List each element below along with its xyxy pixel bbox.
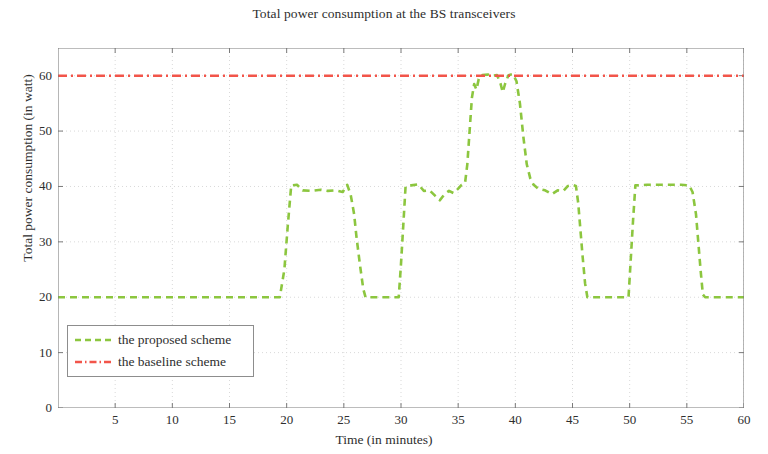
y-tick-label: 0 (18, 400, 52, 416)
series-layer (58, 74, 744, 297)
legend-line-sample-proposed (74, 333, 114, 347)
chart-title: Total power consumption at the BS transc… (0, 6, 768, 22)
y-tick-label: 60 (18, 68, 52, 84)
y-tick-label: 40 (18, 178, 52, 194)
x-tick-label: 10 (152, 412, 192, 428)
x-axis-label: Time (in minutes) (0, 432, 768, 448)
x-tick-label: 55 (667, 412, 707, 428)
series-line-proposed (58, 74, 744, 297)
legend-label-baseline: the baseline scheme (118, 355, 226, 369)
x-tick-label: 35 (438, 412, 478, 428)
y-tick-label: 10 (18, 345, 52, 361)
x-tick-label: 25 (324, 412, 364, 428)
x-tick-label: 30 (381, 412, 421, 428)
y-tick-label: 50 (18, 123, 52, 139)
chart-legend[interactable]: the proposed scheme the baseline scheme (67, 325, 254, 377)
y-tick-label: 30 (18, 234, 52, 250)
legend-line-sample-baseline (74, 355, 114, 369)
x-tick-label: 60 (724, 412, 764, 428)
x-tick-label: 15 (210, 412, 250, 428)
x-tick-label: 20 (267, 412, 307, 428)
y-tick-labels: 0102030405060 (14, 48, 52, 408)
x-tick-label: 5 (95, 412, 135, 428)
x-tick-label: 45 (553, 412, 593, 428)
x-tick-labels: 51015202530354045505560 (58, 412, 744, 432)
legend-item-proposed[interactable]: the proposed scheme (74, 329, 231, 351)
x-tick-label: 40 (495, 412, 535, 428)
y-tick-label: 20 (18, 289, 52, 305)
x-tick-label: 50 (610, 412, 650, 428)
legend-item-baseline[interactable]: the baseline scheme (74, 351, 226, 373)
legend-label-proposed: the proposed scheme (118, 333, 231, 347)
chart-figure: Total power consumption at the BS transc… (0, 0, 768, 454)
